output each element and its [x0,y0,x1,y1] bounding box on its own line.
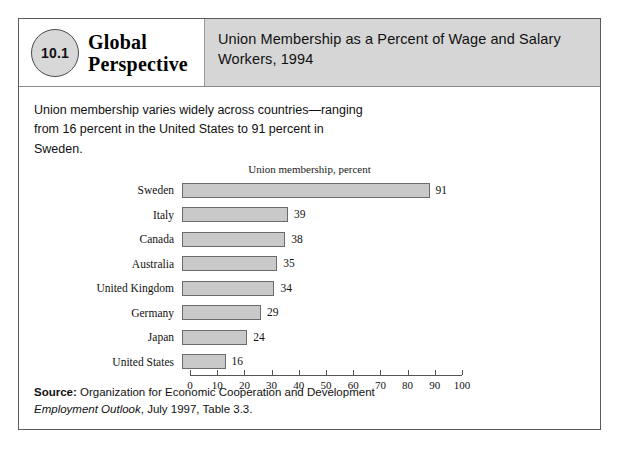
bar-row: United Kingdom34 [19,277,584,299]
figure-container: 10.1 Global Perspective Union Membership… [18,18,601,430]
source-text-second: , July 1997, Table 3.3. [141,403,253,415]
bar-track: 16 [182,354,584,369]
x-axis-tick [326,370,327,375]
bar-track: 35 [182,256,584,271]
bar-row: Sweden91 [19,179,584,201]
bar [182,354,226,369]
x-axis-line [190,375,462,376]
bar-row: Japan24 [19,326,584,348]
bar-track: 39 [182,207,584,222]
x-axis-tick [408,370,409,375]
bar-category-label: United Kingdom [19,282,182,294]
bar [182,330,247,345]
bar [182,256,277,271]
brand-line-perspective: Perspective [88,54,188,74]
x-axis-tick-label: 100 [454,379,471,391]
bar-value-label: 38 [291,232,303,247]
bar-value-label: 91 [436,183,448,198]
x-axis-tick [380,370,381,375]
bar-row: Germany29 [19,302,584,324]
bar-category-label: Australia [19,258,182,270]
bar-category-label: Japan [19,331,182,343]
bar-value-label: 24 [253,330,265,345]
x-axis-tick [299,370,300,375]
bar-category-label: Sweden [19,184,182,196]
source-label: Source: [34,386,77,398]
bar-track: 38 [182,232,584,247]
bar-track: 34 [182,281,584,296]
bar-value-label: 34 [280,281,292,296]
bar-value-label: 16 [232,354,244,369]
x-axis-tick [217,370,218,375]
brand-title: Global Perspective [88,32,188,74]
figure-header: 10.1 Global Perspective Union Membership… [19,19,600,87]
x-axis-tick [272,370,273,375]
bar-category-label: Italy [19,209,182,221]
bar-category-label: Germany [19,307,182,319]
figure-page: 10.1 Global Perspective Union Membership… [0,0,621,449]
bar-track: 91 [182,183,584,198]
bar [182,305,261,320]
bar [182,281,274,296]
source-note: Source: Organization for Economic Cooper… [34,384,434,419]
source-publication: Employment Outlook [34,403,141,415]
x-axis-tick [462,370,463,375]
header-title-area: Union Membership as a Percent of Wage an… [204,19,600,86]
x-axis-tick [244,370,245,375]
intro-paragraph: Union membership varies widely across co… [34,101,364,159]
bar [182,183,430,198]
bar [182,207,288,222]
chart-title: Union membership, percent [19,163,584,175]
bar [182,232,285,247]
bar-track: 24 [182,330,584,345]
bar-row: Canada38 [19,228,584,250]
bar-track: 29 [182,305,584,320]
figure-title: Union Membership as a Percent of Wage an… [218,29,588,69]
chart-title-text: Union membership, percent [248,163,371,175]
bar-value-label: 29 [267,305,279,320]
brand-line-global: Global [88,32,188,52]
chapter-number-badge: 10.1 [31,29,79,77]
bar-row: Italy39 [19,204,584,226]
bar-row: United States16 [19,351,584,373]
bar-row: Australia35 [19,253,584,275]
bar-category-label: Canada [19,233,182,245]
figure-body: Union membership varies widely across co… [19,87,600,430]
bar-chart-plot: Sweden91Italy39Canada38Australia35United… [19,179,584,374]
x-axis-tick [435,370,436,375]
x-axis-tick [190,370,191,375]
source-text-first: Organization for Economic Cooperation an… [77,386,375,398]
bar-value-label: 35 [283,256,295,271]
bar-category-label: United States [19,356,182,368]
bar-value-label: 39 [294,207,306,222]
x-axis-tick [353,370,354,375]
header-brand-area: 10.1 Global Perspective [19,19,204,86]
